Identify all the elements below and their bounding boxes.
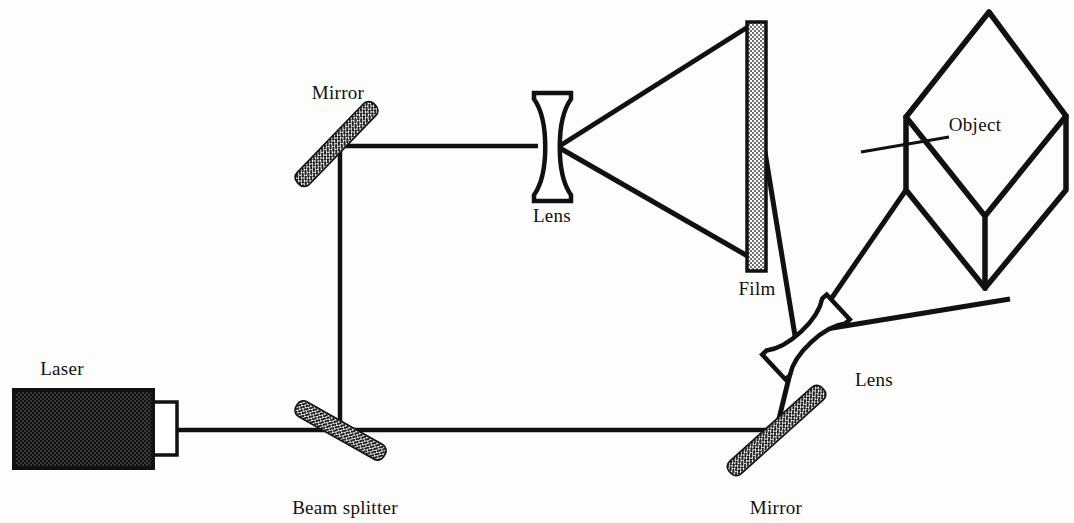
- laser-aperture: [152, 402, 177, 455]
- label-mirror-top: Mirror: [312, 82, 365, 103]
- lens-right: [762, 295, 850, 380]
- beam-right-lens-fan-to-film: [765, 152, 797, 348]
- lens-top: [534, 93, 571, 201]
- film-plate: [747, 22, 766, 271]
- beam-top-lens-fan-lower: [558, 147, 751, 258]
- label-object: Object: [949, 114, 1002, 135]
- label-mirror-bottom: Mirror: [750, 497, 803, 518]
- laser-body: [14, 390, 153, 468]
- beam-right-lens-fan-lower: [820, 299, 1010, 330]
- label-laser: Laser: [40, 358, 84, 379]
- beam-splitter-to-top-lens: [340, 146, 538, 432]
- film-emulsion: [747, 22, 766, 271]
- diagram-canvas: Laser Mirror Lens Film Object Lens Mirro…: [0, 0, 1074, 523]
- label-beam-splitter: Beam splitter: [292, 497, 398, 518]
- beam-top-lens-fan-upper: [558, 25, 751, 147]
- laser-source: [14, 390, 177, 468]
- lens-top-body: [534, 93, 571, 201]
- label-lens-top: Lens: [533, 205, 571, 226]
- lens-right-body: [762, 295, 850, 380]
- holography-diagram: Laser Mirror Lens Film Object Lens Mirro…: [0, 0, 1074, 523]
- label-lens-right: Lens: [855, 369, 893, 390]
- object-cube: [906, 12, 1066, 288]
- label-film: Film: [738, 278, 775, 299]
